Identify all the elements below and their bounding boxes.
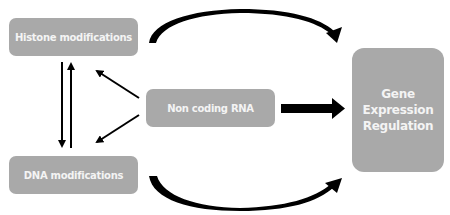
non-coding-rna-node: Non coding RNA [146,89,275,127]
arrow-ncrna-to-gene [281,98,345,119]
arrow-dna-to-gene [149,176,342,211]
arrow-ncrna-to-dna [97,115,139,142]
gene-label-line-3: Regulation [363,118,433,134]
ncrna-label: Non coding RNA [167,103,254,114]
gene-expression-regulation-node: Gene Expression Regulation [352,48,444,172]
arrow-ncrna-to-histone [97,71,139,98]
histone-modifications-node: Histone modifications [9,18,138,56]
histone-label: Histone modifications [15,32,132,43]
arrow-histone-to-gene [149,9,342,43]
gene-label-line-2: Expression [363,102,434,118]
gene-label-line-1: Gene [381,86,414,102]
dna-modifications-node: DNA modifications [9,156,138,194]
dna-label: DNA modifications [24,170,123,181]
